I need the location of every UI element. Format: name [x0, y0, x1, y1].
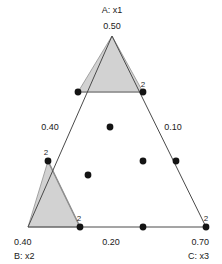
- data-point: [107, 124, 114, 131]
- ternary-plot: 2 2 2 2 A: x1 0.50 0.40 0.10 0.20 0.40 B…: [0, 0, 222, 264]
- data-point: [203, 224, 210, 231]
- axis-tick-left: 0.40: [41, 122, 59, 132]
- vertex-value-a: 0.50: [103, 21, 121, 31]
- data-point: [140, 224, 147, 231]
- axis-tick-right: 0.10: [164, 122, 182, 132]
- vertex-label-b: B: x2: [14, 251, 35, 261]
- data-point: [140, 158, 147, 165]
- axis-tick-bottom: 0.20: [102, 237, 120, 247]
- shaded-region-top: [78, 36, 143, 92]
- vertex-value-b: 0.40: [14, 237, 32, 247]
- data-point: [75, 89, 82, 96]
- vertex-label-c: C: x3: [188, 251, 209, 261]
- vertex-value-c: 0.70: [191, 237, 209, 247]
- vertex-label-a: A: x1: [102, 5, 123, 15]
- point-replicate-label: 2: [141, 80, 146, 89]
- shaded-region-lower-left: [28, 161, 80, 227]
- data-point: [45, 158, 52, 165]
- point-replicate-label: 2: [77, 214, 82, 223]
- data-point: [140, 89, 147, 96]
- data-point: [173, 158, 180, 165]
- ternary-plot-canvas: 2 2 2 2 A: x1 0.50 0.40 0.10 0.20 0.40 B…: [0, 0, 222, 264]
- data-point: [77, 224, 84, 231]
- point-replicate-label: 2: [44, 148, 49, 157]
- point-replicate-label: 2: [204, 214, 209, 223]
- data-point: [85, 172, 92, 179]
